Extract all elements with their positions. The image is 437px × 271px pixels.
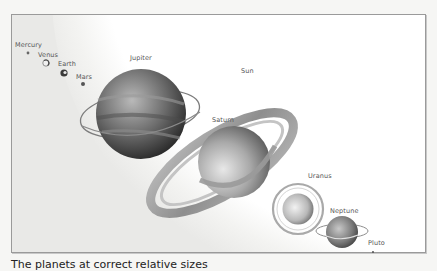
earth-planet [60, 69, 67, 76]
neptune-label: Neptune [330, 207, 358, 215]
uranus-label: Uranus [308, 172, 332, 180]
mars-planet [81, 82, 85, 86]
jupiter-label: Jupiter [130, 54, 152, 62]
venus-label: Venus [38, 51, 58, 59]
venus-planet [43, 60, 49, 66]
pluto-planet [372, 251, 374, 253]
mars-label: Mars [76, 73, 92, 81]
saturn-label: Saturn [212, 116, 234, 124]
earth-label: Earth [58, 60, 76, 68]
mercury-label: Mercury [15, 41, 42, 49]
neptune-planet [316, 216, 368, 248]
jupiter-planet [77, 69, 202, 159]
pluto-label: Pluto [368, 239, 385, 247]
figure-caption: The planets at correct relative sizes [11, 258, 208, 271]
sun-label: Sun [241, 67, 254, 75]
planets-illustration [0, 0, 437, 271]
uranus-planet [273, 184, 323, 234]
mercury-planet [27, 52, 30, 55]
